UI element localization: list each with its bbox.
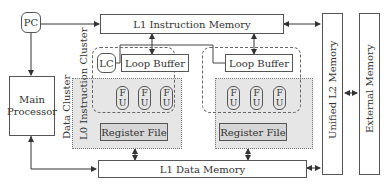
external-memory-label: External Memory: [364, 44, 375, 133]
register-file-2: Register File: [219, 123, 287, 141]
fu-bottom: U: [141, 98, 149, 108]
functional-unit: F U: [160, 86, 173, 110]
fu-top: F: [253, 88, 259, 98]
l1-data-memory-label: L1 Data Memory: [160, 164, 245, 175]
register-file-2-label: Register File: [220, 127, 285, 138]
pc-label: PC: [24, 17, 38, 28]
unified-l2-memory-label: Unified L2 Memory: [327, 40, 338, 139]
l1-instruction-memory-box: L1 Instruction Memory: [100, 14, 284, 34]
fu-top: F: [119, 88, 125, 98]
functional-unit: F U: [250, 86, 263, 110]
loop-buffer-1: Loop Buffer: [121, 54, 189, 72]
main-processor-line1: Main: [19, 94, 45, 106]
pc-box: PC: [21, 12, 41, 33]
main-processor-box: Main Processor: [9, 76, 55, 136]
l1-instruction-memory-label: L1 Instruction Memory: [133, 19, 251, 30]
loop-buffer-2: Loop Buffer: [225, 54, 293, 72]
fu-top: F: [230, 88, 236, 98]
functional-unit: F U: [138, 86, 151, 110]
fu-bottom: U: [253, 98, 261, 108]
loop-buffer-2-label: Loop Buffer: [229, 58, 289, 69]
functional-unit: F U: [273, 86, 286, 110]
fu-top: F: [141, 88, 147, 98]
lc-label: LC: [99, 58, 113, 69]
data-cluster-label: Data Cluster: [61, 75, 72, 139]
fu-bottom: U: [163, 98, 171, 108]
fu-bottom: U: [230, 98, 238, 108]
l0-instruction-cluster-label: L0 Instruction Cluster: [78, 27, 89, 140]
register-file-1: Register File: [100, 123, 168, 141]
fu-bottom: U: [119, 98, 127, 108]
loop-buffer-1-label: Loop Buffer: [125, 58, 185, 69]
fu-bottom: U: [276, 98, 284, 108]
lc-box: LC: [97, 53, 116, 73]
main-processor-line2: Processor: [7, 106, 57, 118]
functional-unit: F U: [227, 86, 240, 110]
fu-top: F: [276, 88, 282, 98]
l1-data-memory-box: L1 Data Memory: [98, 160, 307, 178]
functional-unit: F U: [116, 86, 129, 110]
fu-top: F: [163, 88, 169, 98]
register-file-1-label: Register File: [101, 127, 166, 138]
